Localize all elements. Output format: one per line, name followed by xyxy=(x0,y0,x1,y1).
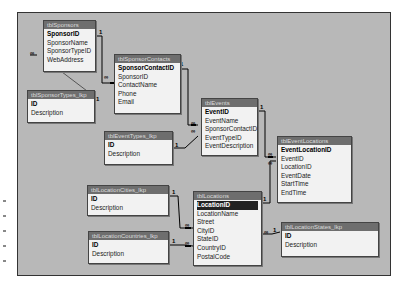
field-primary-key[interactable]: EventID xyxy=(205,108,254,117)
table-sponsor-types[interactable]: tblSponsorTypes_lkp ID Description xyxy=(27,90,95,123)
table-events[interactable]: tblEvents EventID EventName SponsorConta… xyxy=(201,98,258,156)
table-event-types[interactable]: tblEventTypes_lkp ID Description xyxy=(104,131,173,165)
table-location-states[interactable]: tblLocationStates_lkp ID Description xyxy=(281,222,379,257)
field[interactable]: LocationID xyxy=(281,163,348,172)
field[interactable]: EventID xyxy=(281,155,348,164)
table-location-countries[interactable]: tblLocationCountries_lkp ID Description xyxy=(88,231,169,264)
cardinality-many: ∞ xyxy=(268,151,272,157)
field[interactable]: PostalCode xyxy=(197,253,258,262)
field[interactable]: LocationName xyxy=(197,210,258,219)
field[interactable]: EndTime xyxy=(281,189,348,198)
field-primary-key[interactable]: ID xyxy=(285,232,375,241)
field-primary-key[interactable]: EventLocationID xyxy=(281,146,348,155)
field[interactable]: StartTime xyxy=(281,180,348,189)
field[interactable]: SponsorContactID xyxy=(205,125,254,134)
field[interactable]: EventTypeID xyxy=(205,134,254,143)
field[interactable]: EventDate xyxy=(281,172,348,181)
table-title[interactable]: tblSponsors xyxy=(44,21,95,29)
field-primary-key[interactable]: ID xyxy=(91,195,165,204)
field[interactable]: Phone xyxy=(118,90,177,99)
field[interactable]: SponsorName xyxy=(47,39,92,48)
table-title[interactable]: tblSponsorTypes_lkp xyxy=(28,91,94,99)
cardinality-one: 1 xyxy=(175,142,178,148)
field[interactable]: CountryID xyxy=(197,244,258,253)
table-locations[interactable]: tblLocations LocationID LocationName Str… xyxy=(193,191,262,266)
field-primary-key[interactable]: ID xyxy=(31,100,91,109)
table-sponsor-contacts[interactable]: tblSponsorContacts SponsorContactID Spon… xyxy=(114,54,181,114)
cardinality-one: 1 xyxy=(172,238,175,244)
field-primary-key[interactable]: SponsorID xyxy=(47,30,92,39)
field-primary-key[interactable]: ID xyxy=(108,141,169,150)
table-title[interactable]: tblLocations xyxy=(194,192,261,200)
field[interactable]: SponsorID xyxy=(118,73,177,82)
field[interactable]: StateID xyxy=(197,235,258,244)
field[interactable]: EventName xyxy=(205,117,254,126)
field[interactable]: Email xyxy=(118,98,177,107)
field[interactable]: Description xyxy=(91,204,165,213)
field[interactable]: EventDescription xyxy=(205,142,254,151)
field-primary-key-selected[interactable]: LocationID xyxy=(197,201,258,210)
field-primary-key[interactable]: ID xyxy=(92,241,165,250)
table-event-locations[interactable]: tblEventLocations EventLocationID EventI… xyxy=(277,136,352,203)
table-title[interactable]: tblEventTypes_lkp xyxy=(105,132,172,140)
table-title[interactable]: tblLocationStates_lkp xyxy=(282,223,378,231)
cardinality-one: 1 xyxy=(172,189,175,195)
table-title[interactable]: tblSponsorContacts xyxy=(115,55,180,63)
field-primary-key[interactable]: SponsorContactID xyxy=(118,64,177,73)
cardinality-many: ∞ xyxy=(191,120,195,126)
cardinality-one: 1 xyxy=(96,96,99,102)
cardinality-one: 1 xyxy=(273,227,276,233)
cardinality-many: ∞ xyxy=(104,74,108,80)
cardinality-many: ∞ xyxy=(185,222,189,228)
cardinality-one: 1 xyxy=(260,104,263,110)
field[interactable]: Street xyxy=(197,218,258,227)
cardinality-many: ∞ xyxy=(30,50,34,56)
field[interactable]: WebAddress xyxy=(47,56,92,65)
field[interactable]: ContactName xyxy=(118,81,177,90)
field[interactable]: Description xyxy=(92,250,165,259)
field[interactable]: SponsorTypeID xyxy=(47,47,92,56)
cardinality-many: ∞ xyxy=(268,160,272,166)
cardinality-one: 1 xyxy=(99,29,102,35)
field[interactable]: Description xyxy=(31,109,91,118)
table-title[interactable]: tblLocationCities_lkp xyxy=(88,186,168,194)
field[interactable]: Description xyxy=(285,241,375,250)
field[interactable]: Description xyxy=(108,150,169,159)
cardinality-many: ∞ xyxy=(264,229,268,235)
cardinality-many: ∞ xyxy=(191,128,195,134)
table-location-cities[interactable]: tblLocationCities_lkp ID Description xyxy=(87,185,169,216)
cardinality-one: 1 xyxy=(263,196,266,202)
table-sponsors[interactable]: tblSponsors SponsorID SponsorName Sponso… xyxy=(43,20,96,72)
table-title[interactable]: tblEvents xyxy=(202,99,257,107)
table-title[interactable]: tblEventLocations xyxy=(278,137,351,145)
table-title[interactable]: tblLocationCountries_lkp xyxy=(89,232,168,240)
field[interactable]: CityID xyxy=(197,227,258,236)
cardinality-many: ∞ xyxy=(185,240,189,246)
